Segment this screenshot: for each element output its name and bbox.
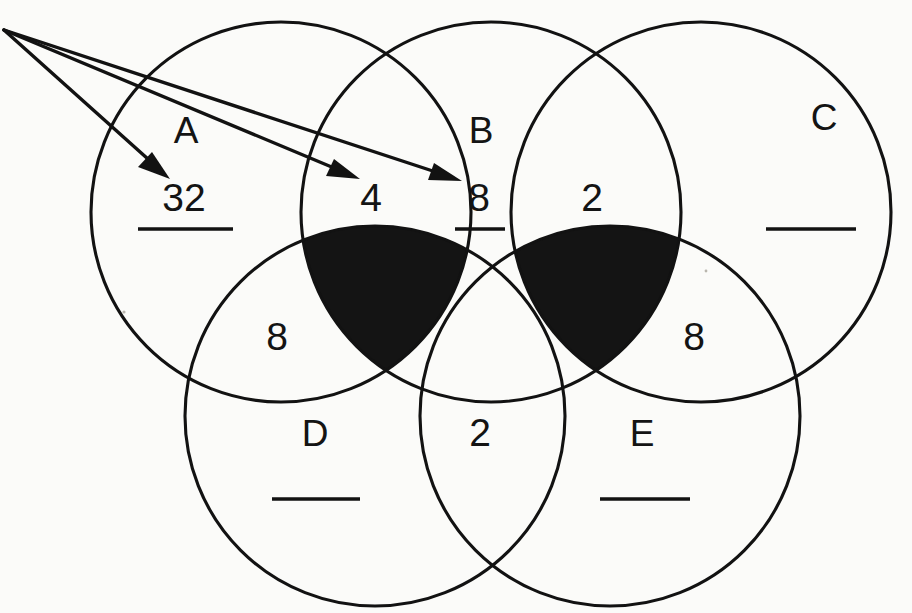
paper-speck <box>705 270 708 273</box>
region-value-a-b: 4 <box>360 176 382 219</box>
region-value-d-e: 2 <box>469 411 491 454</box>
venn-diagram-svg: A B C D E 32 4 8 2 8 8 2 <box>0 0 912 613</box>
arrow-to-4 <box>4 30 360 179</box>
venn-diagram-canvas: A B C D E 32 4 8 2 8 8 2 <box>0 0 912 613</box>
arrow-to-32 <box>4 30 170 179</box>
arrow-to-8 <box>4 30 462 181</box>
arrow-head-icon <box>428 163 462 181</box>
region-value-a-d: 8 <box>266 315 288 358</box>
region-value-c-e: 8 <box>683 315 705 358</box>
region-value-b-only-left: 8 <box>468 176 490 219</box>
arrow-head-icon <box>326 159 360 179</box>
callout-arrows <box>4 30 462 181</box>
set-label-a: A <box>174 110 199 151</box>
region-value-a-only: 32 <box>162 176 205 219</box>
region-value-b-c: 2 <box>581 176 603 219</box>
set-label-b: B <box>469 110 494 151</box>
paper-speck <box>122 310 125 313</box>
set-label-e: E <box>630 413 655 454</box>
set-label-c: C <box>811 97 838 138</box>
set-label-d: D <box>302 413 329 454</box>
